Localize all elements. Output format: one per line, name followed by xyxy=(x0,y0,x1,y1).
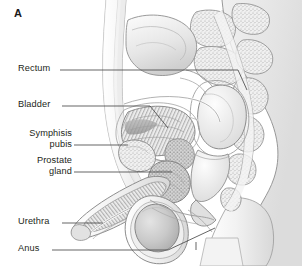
label-rectum: Rectum xyxy=(18,63,50,74)
label-symphisis-pubis: Symphisis pubis xyxy=(10,128,72,149)
label-anus: Anus xyxy=(18,243,39,254)
anatomical-figure: A Rectum Bladder Symphisis pubis Prostat… xyxy=(0,0,302,266)
scrotum-testis xyxy=(125,196,188,264)
label-urethra: Urethra xyxy=(18,216,49,227)
panel-letter: A xyxy=(14,8,22,19)
sigmoid-colon xyxy=(126,15,197,75)
label-bladder: Bladder xyxy=(18,99,50,110)
label-prostate-gland: Prostate gland xyxy=(10,155,72,176)
